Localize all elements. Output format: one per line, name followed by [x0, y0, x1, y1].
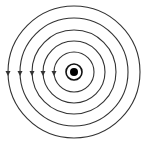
magnetic-field-diagram [0, 0, 145, 147]
arrow-down-icon [41, 71, 46, 76]
wire-current-dot-icon [70, 68, 78, 76]
arrow-down-icon [52, 71, 57, 76]
arrow-down-icon [18, 71, 23, 76]
arrow-down-icon [6, 71, 11, 76]
arrow-down-icon [30, 71, 35, 76]
